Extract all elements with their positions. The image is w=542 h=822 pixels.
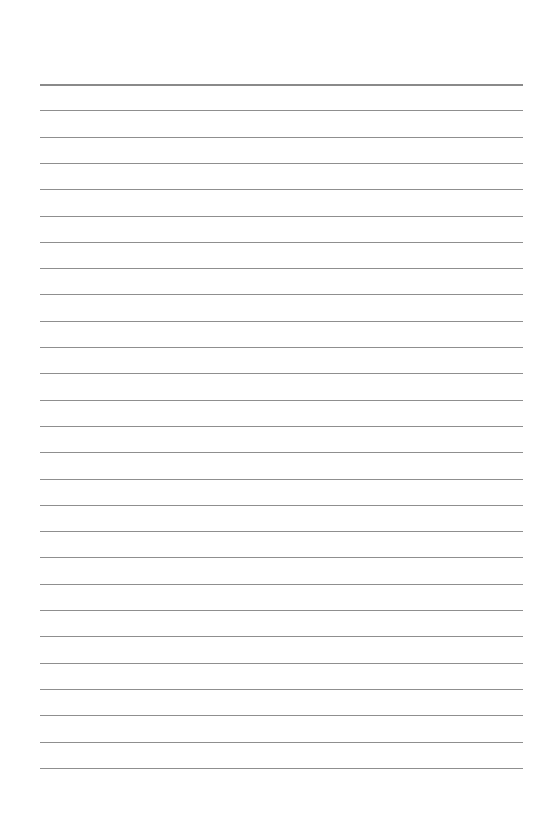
ruled-line <box>40 610 523 611</box>
ruled-line <box>40 742 523 743</box>
ruled-line <box>40 373 523 374</box>
ruled-line <box>40 242 523 243</box>
ruled-line <box>40 268 523 269</box>
ruled-line <box>40 163 523 164</box>
ruled-line <box>40 137 523 138</box>
ruled-line <box>40 110 523 111</box>
ruled-line <box>40 452 523 453</box>
ruled-line <box>40 531 523 532</box>
ruled-line <box>40 426 523 427</box>
ruled-line <box>40 321 523 322</box>
ruled-line <box>40 347 523 348</box>
ruled-line <box>40 557 523 558</box>
ruled-line <box>40 715 523 716</box>
ruled-line <box>40 479 523 480</box>
ruled-line <box>40 768 523 769</box>
ruled-line <box>40 505 523 506</box>
header-rule-line <box>40 84 523 86</box>
ruled-line <box>40 216 523 217</box>
ruled-line <box>40 400 523 401</box>
ruled-line <box>40 584 523 585</box>
ruled-line <box>40 689 523 690</box>
ruled-line <box>40 636 523 637</box>
ruled-line <box>40 189 523 190</box>
lined-paper-page <box>0 0 542 822</box>
ruled-line <box>40 294 523 295</box>
ruled-line <box>40 663 523 664</box>
